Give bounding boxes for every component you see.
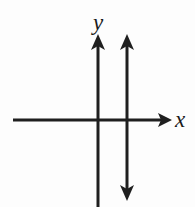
coordinate-axes-figure: y x — [0, 0, 195, 207]
x-axis-label: x — [175, 108, 185, 131]
y-axis-label: y — [93, 11, 103, 34]
